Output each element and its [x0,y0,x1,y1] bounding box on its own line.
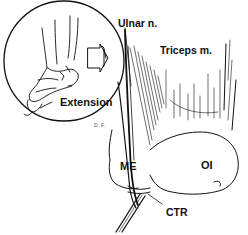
label-ulnar-nerve: Ulnar n. [118,18,157,29]
elbow-anatomy-drawing [0,0,248,235]
label-medial-epicondyle: ME [120,161,137,172]
olecranon [150,132,238,194]
surgical-instrument [116,194,145,232]
label-cubital-tunnel-retinaculum: CTR [166,207,188,218]
extension-arrow [88,44,108,72]
label-olecranon: OI [201,160,213,171]
label-triceps-muscle: Triceps m. [160,45,212,56]
artist-signature: D.F. [94,123,107,128]
illustration-canvas: Ulnar n. Triceps m. Extension ME OI CTR … [0,0,248,235]
ulnar-nerve [118,28,138,208]
label-extension: Extension [60,97,113,108]
